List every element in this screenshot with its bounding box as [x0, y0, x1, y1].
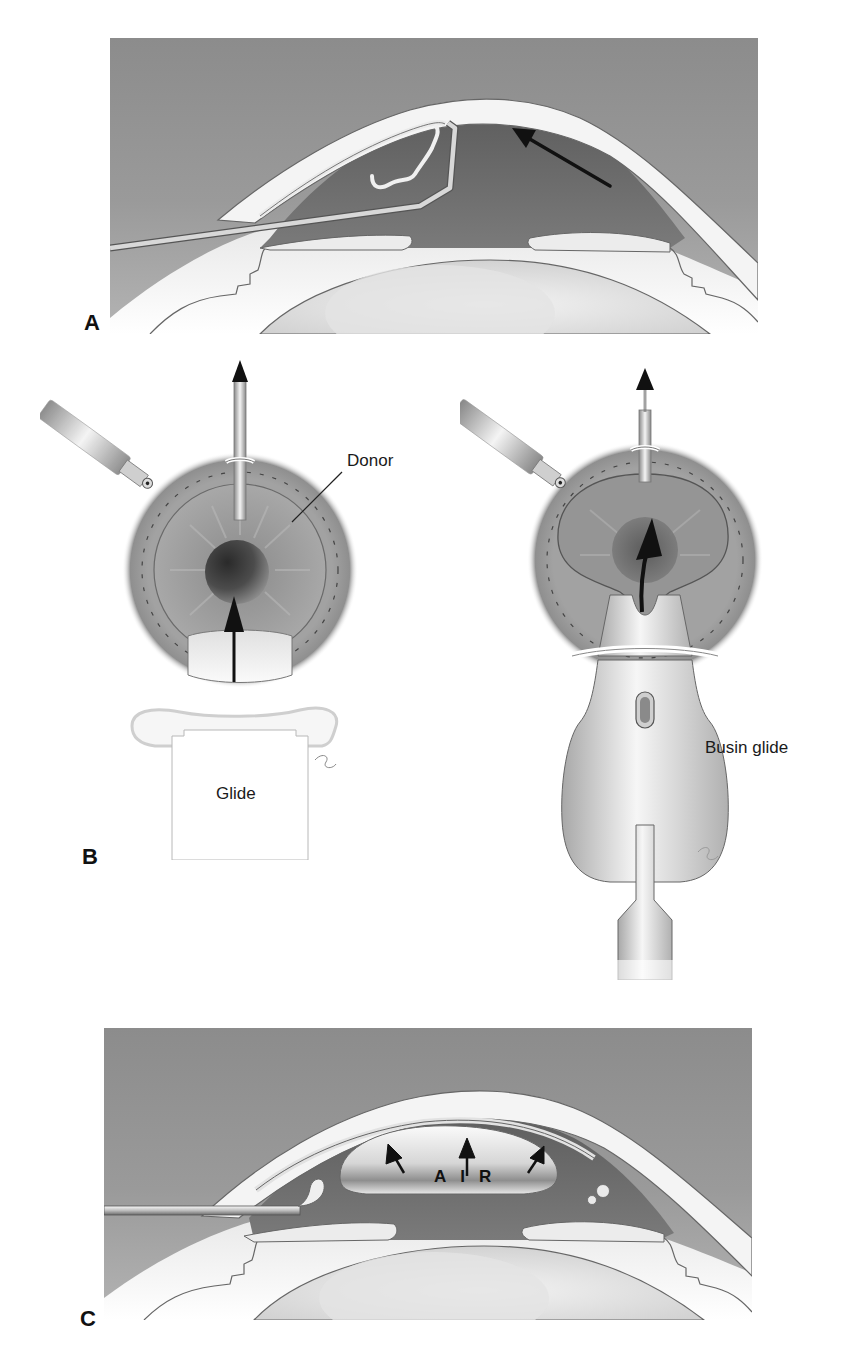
air-label: AIR	[434, 1167, 505, 1187]
panel-a	[110, 38, 758, 334]
donor-label: Donor	[347, 451, 393, 471]
panel-letter-b: B	[82, 844, 98, 870]
panel-b-right	[460, 360, 830, 980]
panel-b-right-illustration	[460, 360, 830, 980]
panel-c	[104, 1028, 752, 1320]
panel-letter-a: A	[84, 310, 100, 336]
panel-letter-c: C	[80, 1306, 96, 1332]
panel-c-illustration	[104, 1028, 752, 1320]
busin-glide-label: Busin glide	[705, 738, 788, 758]
panel-a-illustration	[110, 38, 758, 334]
glide-label: Glide	[216, 784, 256, 804]
